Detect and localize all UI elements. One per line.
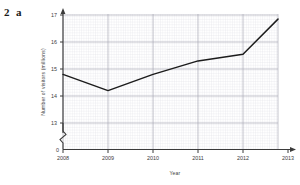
- y-axis-title: Number of visitors (millions): [40, 48, 46, 116]
- y-tick-label-16: 16: [51, 39, 57, 45]
- x-tick-label-2008: 2008: [57, 155, 69, 161]
- y-tick-label-17: 17: [51, 12, 57, 18]
- x-tick-label-2010: 2010: [147, 155, 159, 161]
- x-tick-label-2011: 2011: [192, 155, 204, 161]
- y-tick-label-13: 13: [51, 120, 57, 126]
- x-axis-title: Year: [170, 170, 181, 176]
- x-tick-label-2013: 2013: [282, 155, 294, 161]
- y-tick-label-zero: 0: [56, 147, 59, 153]
- x-tick-label-2012: 2012: [237, 155, 249, 161]
- chart-minor-grid: [63, 14, 278, 150]
- figure-root: 2a: [0, 0, 300, 185]
- y-tick-label-14: 14: [51, 93, 57, 99]
- line-chart: 17 16 15 14 13 12 0 2008 2009 2010 2011 …: [0, 0, 300, 185]
- x-tick-label-2009: 2009: [102, 155, 114, 161]
- y-tick-label-15: 15: [51, 66, 57, 72]
